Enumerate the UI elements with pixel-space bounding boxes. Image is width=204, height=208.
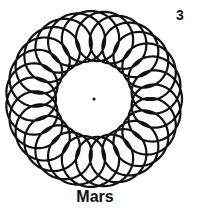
figure-number: 3 [176,7,184,23]
planet-label: Mars [0,188,190,206]
mars-orbit-loop-diagram [0,0,204,208]
earth-center-dot [92,97,95,100]
